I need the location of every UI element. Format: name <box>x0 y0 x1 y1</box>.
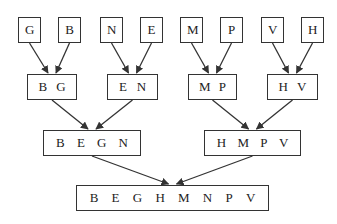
node-box-bg: BG <box>27 74 77 100</box>
node-letter: E <box>112 190 120 206</box>
node-letter: E <box>119 79 127 95</box>
node-letter: N <box>203 190 212 206</box>
node-letter: H <box>155 190 164 206</box>
edge-arrow <box>297 43 313 73</box>
node-letter: M <box>199 79 211 95</box>
node-box-beghmnpv: BEGHMNPV <box>76 185 269 211</box>
node-letter: G <box>56 79 65 95</box>
node-box-e: E <box>140 17 163 43</box>
node-box-en: EN <box>107 74 158 100</box>
node-box-h: H <box>301 17 324 43</box>
edge-arrow <box>92 156 169 184</box>
node-letter: M <box>178 190 190 206</box>
node-box-hv: HV <box>267 74 318 100</box>
edge-arrow <box>112 43 129 73</box>
node-letter: B <box>56 135 65 151</box>
node-letter: V <box>268 22 277 38</box>
node-letter: B <box>38 79 47 95</box>
node-letter: N <box>119 135 128 151</box>
edge-arrow <box>137 43 152 73</box>
edge-arrow <box>213 100 249 129</box>
node-letter: E <box>77 135 85 151</box>
node-letter: N <box>107 22 116 38</box>
edge-arrow <box>96 100 133 129</box>
edge-arrow <box>56 43 70 73</box>
node-letter: V <box>279 135 288 151</box>
edge-arrow <box>52 100 88 129</box>
node-box-b: B <box>58 17 81 43</box>
edge-arrow <box>192 43 209 73</box>
node-letter: P <box>219 79 226 95</box>
node-letter: V <box>246 190 255 206</box>
edge-arrow <box>177 156 253 184</box>
edge-arrow <box>217 43 232 73</box>
node-letter: V <box>297 79 306 95</box>
node-letter: H <box>308 22 317 38</box>
node-letter: G <box>133 190 142 206</box>
node-letter: G <box>25 22 34 38</box>
node-letter: B <box>65 22 74 38</box>
node-box-n: N <box>100 17 123 43</box>
node-box-p: P <box>220 17 243 43</box>
node-letter: M <box>187 22 199 38</box>
node-letter: E <box>148 22 156 38</box>
node-box-hmpv: HMPV <box>204 130 301 156</box>
node-letter: N <box>137 79 146 95</box>
node-box-g: G <box>18 17 41 43</box>
node-box-mp: MP <box>188 74 237 100</box>
node-letter: M <box>237 135 249 151</box>
node-letter: H <box>217 135 226 151</box>
edge-arrows <box>30 43 313 184</box>
node-box-v: V <box>261 17 284 43</box>
node-box-begn: BEGN <box>43 130 141 156</box>
node-letter: G <box>97 135 106 151</box>
node-letter: B <box>90 190 99 206</box>
node-letter: P <box>228 22 235 38</box>
edge-arrow <box>257 100 293 129</box>
edge-arrow <box>30 43 49 73</box>
node-letter: P <box>225 190 232 206</box>
node-letter: H <box>279 79 288 95</box>
edge-arrow <box>273 43 289 73</box>
node-box-m: M <box>180 17 203 43</box>
node-letter: P <box>260 135 267 151</box>
